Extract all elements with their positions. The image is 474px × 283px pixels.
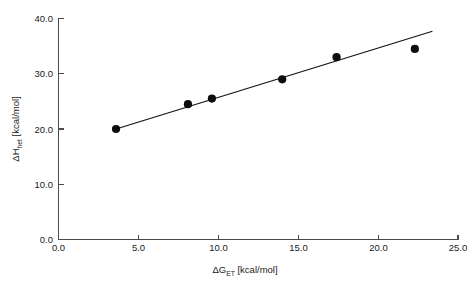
chart-figure: 0.0 10.0 20.0 30.0 40.0 0.0 5.0 10.0 15.… — [0, 0, 474, 283]
y-tick-label: 20.0 — [35, 124, 54, 135]
x-tick-label: 10.0 — [209, 242, 228, 253]
x-axis-title-unit: [kcal/mol] — [235, 264, 278, 275]
x-tick-label: 15.0 — [289, 242, 308, 253]
y-axis-title-unit: [kcal/mol] — [10, 96, 21, 139]
fit-line-group — [114, 31, 432, 129]
y-axis: 0.0 10.0 20.0 30.0 40.0 — [35, 13, 64, 245]
x-axis: 0.0 5.0 10.0 15.0 20.0 25.0 — [52, 235, 467, 254]
y-tick-label: 40.0 — [35, 13, 54, 24]
x-tick-label: 20.0 — [369, 242, 388, 253]
x-axis-title: ΔGET [kcal/mol] — [212, 264, 277, 277]
scatter-plot-canvas: 0.0 10.0 20.0 30.0 40.0 0.0 5.0 10.0 15.… — [0, 0, 474, 283]
data-point — [411, 45, 419, 53]
data-point — [208, 95, 216, 103]
data-point — [278, 75, 286, 83]
linear-fit-line — [114, 31, 432, 129]
x-axis-title-text: ΔGET [kcal/mol] — [212, 264, 277, 277]
x-axis-title-main: ΔG — [212, 264, 226, 275]
x-tick-label: 25.0 — [449, 242, 468, 253]
data-point — [332, 53, 340, 61]
y-axis-title-text: ΔHhet [kcal/mol] — [10, 96, 23, 161]
data-point — [112, 125, 120, 133]
x-tick-label: 5.0 — [132, 242, 145, 253]
y-tick-label: 30.0 — [35, 68, 54, 79]
data-point-group — [112, 45, 419, 133]
y-axis-title-main: ΔH — [10, 148, 21, 161]
y-axis-title-subscript: het — [16, 139, 23, 149]
x-axis-title-subscript: ET — [226, 270, 235, 277]
y-tick-label: 10.0 — [35, 179, 54, 190]
y-axis-title: ΔHhet [kcal/mol] — [10, 96, 23, 161]
x-tick-label: 0.0 — [52, 242, 65, 253]
data-point — [184, 100, 192, 108]
